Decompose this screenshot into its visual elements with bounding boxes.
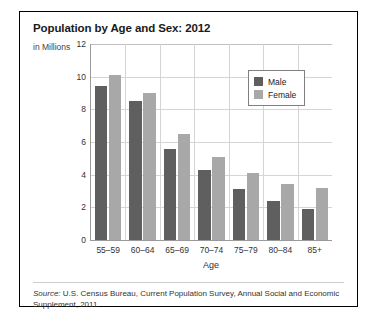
legend-swatch-male-icon xyxy=(254,77,263,86)
source-note: Source: U.S. Census Bureau, Current Popu… xyxy=(33,288,348,310)
legend-swatch-female-icon xyxy=(254,90,263,99)
x-axis-tick-label: 75–79 xyxy=(234,245,258,255)
chart-figure: Population by Age and Sex: 2012 in Milli… xyxy=(19,11,358,307)
x-axis-title: Age xyxy=(90,260,332,270)
bar-female xyxy=(178,134,191,240)
x-axis-tick-label: 60–64 xyxy=(131,245,155,255)
y-axis-tick-label: 4 xyxy=(81,170,86,180)
bar-group: 70–74 xyxy=(194,44,228,240)
source-text: U.S. Census Bureau, Current Population S… xyxy=(33,289,339,309)
bar-group: 55–59 xyxy=(91,44,125,240)
footer-divider xyxy=(33,282,344,283)
source-label: Source: xyxy=(33,289,61,298)
bar-female xyxy=(212,157,225,240)
bar-male xyxy=(233,189,246,240)
legend-label-female: Female xyxy=(268,90,296,100)
y-axis-tick-label: 6 xyxy=(81,137,86,147)
y-axis-tick-label: 0 xyxy=(81,235,86,245)
legend-label-male: Male xyxy=(268,77,286,87)
bar-group: 65–69 xyxy=(160,44,194,240)
bar-female xyxy=(143,93,156,240)
bar-group: 60–64 xyxy=(125,44,159,240)
bar-female xyxy=(109,75,122,240)
bar-female xyxy=(247,173,260,240)
x-axis-tick-label: 55–59 xyxy=(96,245,120,255)
bar-male xyxy=(95,86,108,240)
x-axis-tick-label: 85+ xyxy=(308,245,322,255)
bar-male xyxy=(302,209,315,240)
bar-male xyxy=(198,170,211,240)
bar-female xyxy=(281,184,294,240)
y-axis-tick-label: 8 xyxy=(81,104,86,114)
x-axis-tick-label: 65–69 xyxy=(165,245,189,255)
bar-male xyxy=(164,149,177,240)
legend-item-male: Male xyxy=(254,75,296,88)
legend-item-female: Female xyxy=(254,88,296,101)
y-axis-tick-label: 2 xyxy=(81,202,86,212)
chart-legend: Male Female xyxy=(248,70,305,106)
x-axis-tick-label: 70–74 xyxy=(200,245,224,255)
bar-male xyxy=(129,101,142,240)
x-axis-tick-label: 80–84 xyxy=(269,245,293,255)
bar-male xyxy=(267,201,280,240)
y-axis-tick-label: 12 xyxy=(77,39,86,49)
y-axis-tick-label: 10 xyxy=(77,72,86,82)
bar-female xyxy=(316,188,329,240)
